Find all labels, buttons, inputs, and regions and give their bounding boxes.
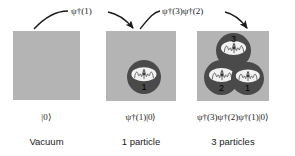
particle-number: 1 [127,83,161,92]
arrow-2-tail [140,11,160,29]
particle-1: 1 [231,62,264,95]
panel-vacuum [13,31,80,100]
state-label-one-particle: ψ†(1)|0⟩ [96,112,186,123]
caption-three-particles: 3 particles [192,136,274,147]
arrow-label-psi-dagger-3-2: ψ†(3)ψ†(2) [162,6,203,17]
figure-canvas: 1 3 2 [0,0,295,156]
particle-core-icon [131,67,156,81]
particle-core-icon [235,69,259,82]
state-label-three-particles: ψ†(3)ψ†(2)ψ†(1)|0⟩ [190,112,276,123]
arrow-label-psi-dagger-1: ψ†(1) [71,6,92,17]
arrow-1-tail [34,11,68,29]
arrow-1-head [108,12,133,28]
particle-number: 1 [231,84,264,93]
caption-vacuum: Vacuum [13,136,80,147]
arrow-2-head [225,12,247,28]
particle-1-single-panel: 1 [127,60,161,94]
particle-number: 3 [216,35,251,44]
state-label-vacuum: |0⟩ [13,112,80,123]
caption-one-particle: 1 particle [101,136,181,147]
